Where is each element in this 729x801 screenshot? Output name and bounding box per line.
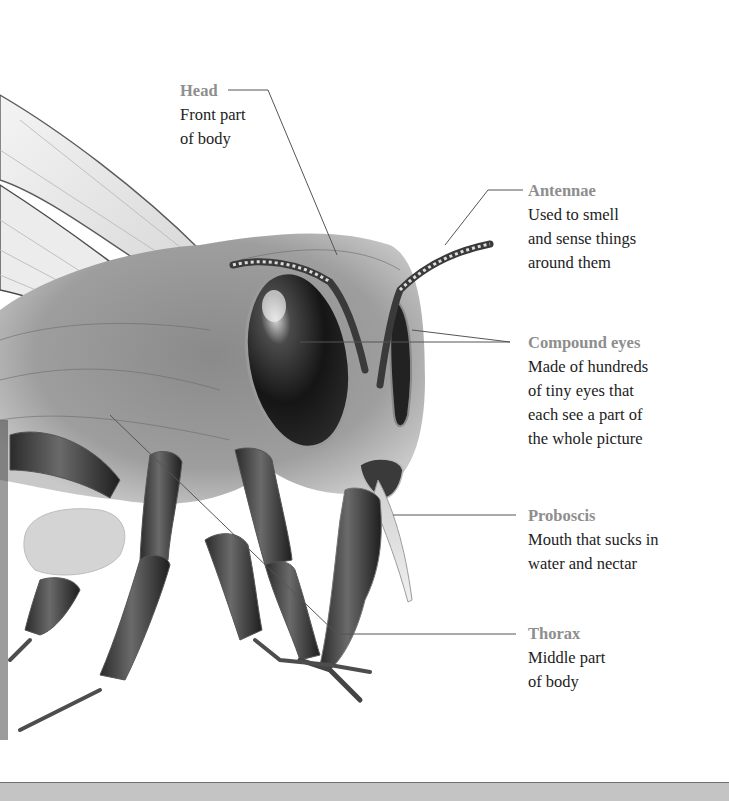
label-thorax-title: Thorax — [528, 622, 605, 646]
leader-antennae — [445, 190, 523, 245]
label-compound-eyes-desc: Made of hundreds of tiny eyes that each … — [528, 355, 648, 451]
label-proboscis-title: Proboscis — [528, 504, 659, 528]
pollen-basket — [24, 509, 125, 575]
label-thorax: Thorax Middle part of body — [528, 622, 605, 694]
label-head-desc: Front part of body — [180, 103, 246, 151]
leader-eyes-1 — [412, 330, 510, 342]
label-head-title: Head — [180, 79, 246, 103]
label-head: Head Front part of body — [180, 79, 246, 151]
label-compound-eyes: Compound eyes Made of hundreds of tiny e… — [528, 331, 648, 451]
label-compound-eyes-title: Compound eyes — [528, 331, 648, 355]
label-antennae: Antennae Used to smell and sense things … — [528, 179, 636, 275]
label-antennae-title: Antennae — [528, 179, 636, 203]
label-antennae-desc: Used to smell and sense things around th… — [528, 203, 636, 275]
label-proboscis-desc: Mouth that sucks in water and nectar — [528, 528, 659, 576]
label-proboscis: Proboscis Mouth that sucks in water and … — [528, 504, 659, 576]
page-bottom-strip — [0, 782, 729, 801]
label-thorax-desc: Middle part of body — [528, 646, 605, 694]
